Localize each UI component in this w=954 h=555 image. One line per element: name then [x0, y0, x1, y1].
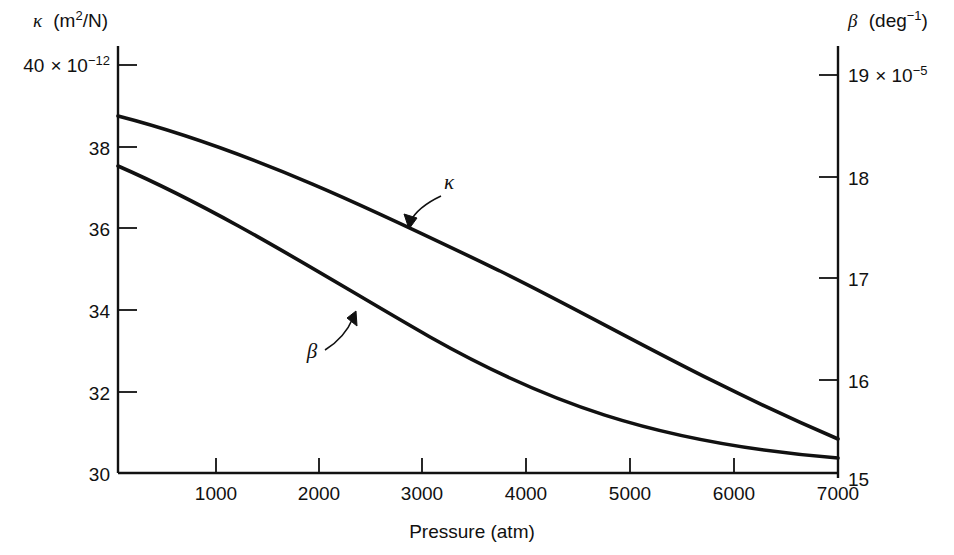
left-tick-label-38: 38 [89, 138, 110, 159]
left-axis-symbol: κ [33, 10, 43, 31]
x-tick-label-4000: 4000 [505, 483, 547, 504]
right-top-tick-value: 19 [848, 65, 869, 86]
x-tick-label-5000: 5000 [609, 483, 651, 504]
kappa-curve [118, 116, 838, 439]
left-axis-units-tail: /N) [83, 10, 108, 31]
kappa-annotation-arrow [404, 196, 441, 229]
left-tick-label-34: 34 [89, 301, 111, 322]
left-tick-label-36: 36 [89, 219, 110, 240]
right-axis-symbol: β [847, 10, 858, 31]
left-top-tick-times: × 10 [50, 55, 88, 76]
beta-curve [118, 166, 838, 458]
right-axis-units-tail: ) [922, 10, 928, 31]
right-tick-label-17: 17 [848, 269, 869, 290]
x-tick-label-1000: 1000 [195, 483, 237, 504]
left-top-tick-value: 40 [23, 55, 44, 76]
x-tick-label-2000: 2000 [298, 483, 340, 504]
right-tick-label-19: 19× 10−5 [848, 63, 927, 86]
chart-svg: κ β κ (m2/N) 40× 10−12 38 36 34 32 30 β … [0, 0, 954, 555]
left-tick-label-40: 40× 10−12 [23, 53, 110, 76]
right-top-tick-exponent: −5 [913, 63, 928, 78]
right-axis-ticks [819, 75, 838, 380]
right-axis-units-exponent: −1 [907, 8, 922, 23]
x-tick-label-7000: 7000 [817, 483, 859, 504]
x-tick-label-6000: 6000 [713, 483, 755, 504]
beta-curve-label: β [306, 339, 318, 363]
left-tick-label-30: 30 [89, 464, 110, 485]
left-tick-label-32: 32 [89, 383, 110, 404]
left-top-tick-exponent: −12 [88, 53, 110, 68]
right-axis-units-base: (deg [869, 10, 907, 31]
x-tick-label-3000: 3000 [401, 483, 443, 504]
left-axis-units-base: (m [53, 10, 75, 31]
right-tick-label-18: 18 [848, 168, 869, 189]
kappa-curve-label: κ [444, 170, 455, 194]
left-axis-units-exponent: 2 [75, 8, 82, 23]
bottom-axis-ticks [216, 458, 838, 473]
x-axis-title: Pressure (atm) [409, 521, 535, 542]
right-top-tick-times: × 10 [875, 65, 913, 86]
right-axis-title: β (deg−1) [847, 8, 928, 31]
figure-container: κ β κ (m2/N) 40× 10−12 38 36 34 32 30 β … [0, 0, 954, 555]
beta-annotation-arrow [325, 311, 357, 350]
left-axis-ticks [118, 65, 137, 392]
left-axis-title: κ (m2/N) [33, 8, 108, 31]
right-tick-label-16: 16 [848, 371, 869, 392]
